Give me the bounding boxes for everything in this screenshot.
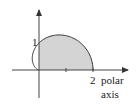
polar-axis-label-line1: polar (101, 74, 124, 86)
tick-label-1: 1 (32, 36, 38, 48)
polar-axis-label-line2: axis (101, 88, 119, 100)
shaded-region (39, 35, 93, 70)
polar-diagram: 1 2 polar axis (0, 0, 138, 106)
tick-label-2: 2 (90, 74, 96, 86)
